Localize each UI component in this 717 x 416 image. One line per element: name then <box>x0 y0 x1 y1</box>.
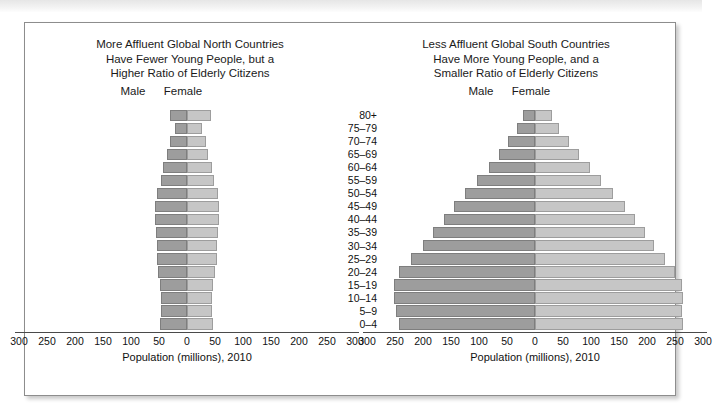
bar-female-20–24 <box>535 266 675 277</box>
chart-title-line-1: More Affluent Global North Countries <box>25 37 355 52</box>
bar-male-35–39 <box>433 227 535 238</box>
bar-row <box>25 318 355 331</box>
bar-female-20–24 <box>187 266 215 277</box>
bar-male-10–14 <box>161 292 187 303</box>
bar-male-45–49 <box>454 201 535 212</box>
bar-row <box>355 135 677 148</box>
bar-row <box>355 292 677 305</box>
bar-female-25–29 <box>187 253 217 264</box>
bar-female-80+ <box>187 110 211 121</box>
bar-row <box>355 161 677 174</box>
bar-female-35–39 <box>187 227 218 238</box>
bar-row <box>25 226 355 239</box>
bar-female-40–44 <box>535 214 635 225</box>
bar-male-0–4 <box>160 318 187 329</box>
bar-female-75–79 <box>535 123 559 134</box>
bar-female-50–54 <box>187 188 218 199</box>
bar-female-55–59 <box>187 175 214 186</box>
bar-female-15–19 <box>535 279 682 290</box>
bar-row <box>355 240 677 253</box>
x-axis-line-global-south <box>363 332 707 333</box>
bar-row <box>25 266 355 279</box>
bar-row <box>355 109 677 122</box>
bar-female-80+ <box>535 110 552 121</box>
bar-male-40–44 <box>155 214 187 225</box>
legend-female-label: Female <box>153 85 213 97</box>
bar-male-60–64 <box>163 162 187 173</box>
bar-male-55–59 <box>477 175 535 186</box>
bar-female-60–64 <box>187 162 212 173</box>
bar-row <box>355 266 677 279</box>
chart-title-line-1: Less Affluent Global South Countries <box>355 37 677 52</box>
chart-title-line-2: Have Fewer Young People, but a <box>25 52 355 67</box>
bar-female-5–9 <box>535 305 682 316</box>
bar-row <box>355 279 677 292</box>
bar-male-65–69 <box>499 149 535 160</box>
bar-row <box>25 135 355 148</box>
bar-female-10–14 <box>187 292 212 303</box>
x-axis-ticks-global-north: 30025020015010050050100150200250300 <box>25 335 355 349</box>
bar-male-70–74 <box>508 136 535 147</box>
chart-title-line-3: Smaller Ratio of Elderly Citizens <box>355 66 677 81</box>
bar-male-60–64 <box>489 162 535 173</box>
bar-male-55–59 <box>161 175 187 186</box>
bar-row <box>355 187 677 200</box>
chart-title-global-south: Less Affluent Global South Countries Hav… <box>355 37 677 81</box>
bar-male-0–4 <box>399 318 535 329</box>
bar-female-60–64 <box>535 162 590 173</box>
bar-male-80+ <box>523 110 535 121</box>
bar-row <box>25 109 355 122</box>
plot-area-global-south <box>355 109 677 331</box>
bar-male-35–39 <box>156 227 187 238</box>
bar-row <box>355 226 677 239</box>
bar-female-50–54 <box>535 188 613 199</box>
x-tick-label: 300 <box>683 335 717 347</box>
bar-female-55–59 <box>535 175 601 186</box>
bar-male-40–44 <box>444 214 535 225</box>
bar-rows-global-north <box>25 109 355 331</box>
bar-male-5–9 <box>396 305 535 316</box>
bar-female-30–34 <box>535 240 654 251</box>
bar-female-0–4 <box>187 318 213 329</box>
bar-male-15–19 <box>394 279 535 290</box>
bar-female-35–39 <box>535 227 645 238</box>
bar-row <box>25 240 355 253</box>
bar-row <box>25 122 355 135</box>
bar-row <box>25 174 355 187</box>
bar-male-50–54 <box>465 188 535 199</box>
bar-row <box>25 213 355 226</box>
bar-row <box>25 161 355 174</box>
bar-female-65–69 <box>535 149 579 160</box>
bar-female-25–29 <box>535 253 665 264</box>
bar-male-65–69 <box>167 149 187 160</box>
bar-row <box>25 200 355 213</box>
bar-female-70–74 <box>187 136 206 147</box>
bar-female-5–9 <box>187 305 212 316</box>
bar-row <box>25 305 355 318</box>
bar-male-75–79 <box>517 123 535 134</box>
bar-male-45–49 <box>155 201 187 212</box>
chart-title-line-2: Have More Young People, and a <box>355 52 677 67</box>
bar-male-10–14 <box>394 292 535 303</box>
bar-female-75–79 <box>187 123 202 134</box>
bar-female-10–14 <box>535 292 683 303</box>
x-axis-label-global-north: Population (millions), 2010 <box>37 351 337 363</box>
bar-female-30–34 <box>187 240 217 251</box>
bar-row <box>25 253 355 266</box>
x-axis-ticks-global-south: 30025020015010050050100150200250300 <box>355 335 677 349</box>
bar-male-15–19 <box>160 279 187 290</box>
bar-male-20–24 <box>399 266 535 277</box>
bar-male-30–34 <box>157 240 187 251</box>
bar-female-65–69 <box>187 149 208 160</box>
x-axis-line-global-north <box>15 332 359 333</box>
bar-row <box>355 305 677 318</box>
bar-female-45–49 <box>535 201 625 212</box>
bar-row <box>25 187 355 200</box>
bar-row <box>355 148 677 161</box>
bar-male-30–34 <box>423 240 535 251</box>
top-grey-band <box>0 0 702 12</box>
legend-female-label: Female <box>501 85 561 97</box>
bar-male-20–24 <box>158 266 187 277</box>
bar-row <box>25 292 355 305</box>
